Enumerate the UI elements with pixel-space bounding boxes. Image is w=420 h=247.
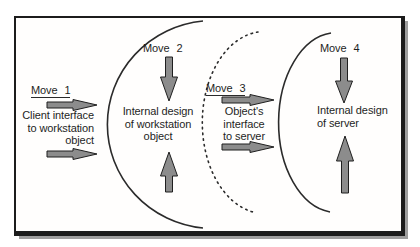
workstation-internal-line2: of workstation xyxy=(112,118,204,131)
move3-server-arrow-icon xyxy=(222,142,274,153)
object-interface-text: Object's interface to server xyxy=(212,105,276,143)
server-internal-line1: Internal design xyxy=(317,104,402,117)
move4-label: Move 4 xyxy=(320,42,359,54)
object-interface-line3: to server xyxy=(212,130,276,143)
client-interface-line3: object xyxy=(12,134,94,147)
workstation-internal-text: Internal design of workstation object xyxy=(112,105,204,143)
workstation-internal-line3: object xyxy=(112,130,204,143)
object-interface-line2: interface xyxy=(212,118,276,131)
move2-label: Move 2 xyxy=(143,42,182,54)
move1-object-arrow-icon xyxy=(47,149,97,160)
client-interface-line2: to workstation xyxy=(12,122,94,135)
client-interface-text: Client interface to workstation object xyxy=(12,109,94,147)
move4-down-arrow-icon xyxy=(336,58,353,103)
workstation-internal-line1: Internal design xyxy=(112,105,204,118)
server-internal-text: Internal design of server xyxy=(317,104,402,129)
figure-canvas: Move 1 Client interface to workstation o… xyxy=(0,0,420,247)
move3-label: Move 3 xyxy=(206,82,245,96)
move1-label: Move 1 xyxy=(31,84,70,98)
client-interface-line1: Client interface xyxy=(12,109,94,122)
server-internal-up-arrow-icon xyxy=(337,136,354,193)
move2-down-arrow-icon xyxy=(161,57,178,101)
server-internal-line2: of server xyxy=(317,117,402,130)
workstation-internal-up-arrow-icon xyxy=(161,152,178,192)
object-interface-line1: Object's xyxy=(212,105,276,118)
move3-interface-arrow-icon xyxy=(222,95,274,106)
